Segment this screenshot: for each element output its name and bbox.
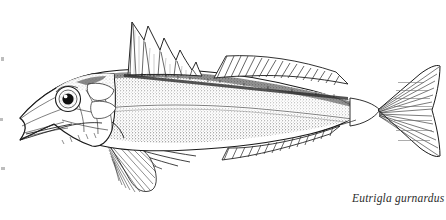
fish-illustration [0,0,446,220]
illustration-plate: Eutrigla gurnardus [0,0,446,220]
eye [56,86,81,112]
species-caption: Eutrigla gurnardus [352,192,444,204]
